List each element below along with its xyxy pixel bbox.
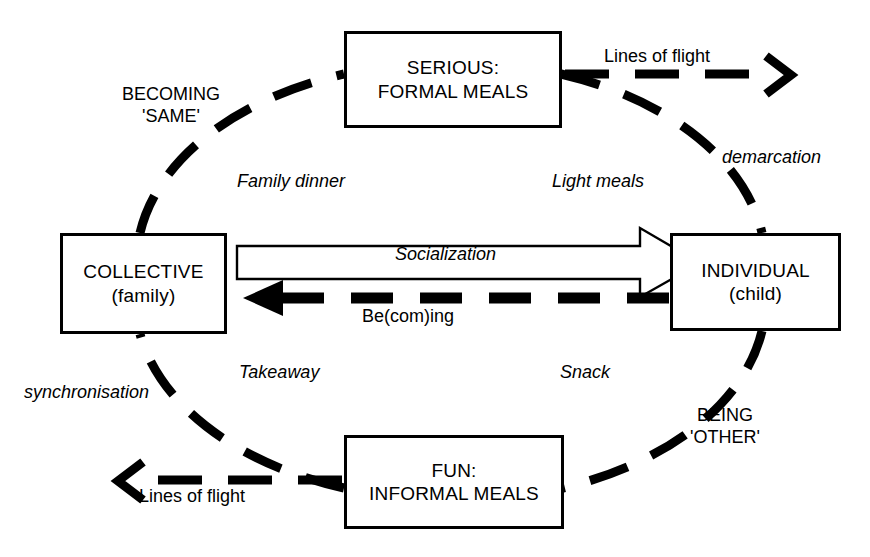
label-takeaway: Takeaway xyxy=(239,362,319,384)
node-individual-line2: (child) xyxy=(729,282,782,305)
label-being-other: BEING 'OTHER' xyxy=(690,405,760,449)
node-serious-line2: FORMAL MEALS xyxy=(378,80,529,103)
label-lines-of-flight-bottom: Lines of flight xyxy=(139,486,245,508)
node-fun-line2: INFORMAL MEALS xyxy=(369,482,539,505)
node-individual-line1: INDIVIDUAL xyxy=(701,259,810,282)
node-serious-formal-meals[interactable]: SERIOUS: FORMAL MEALS xyxy=(344,31,562,128)
label-synchronisation: synchronisation xyxy=(24,382,149,404)
node-serious-line1: SERIOUS: xyxy=(407,56,499,79)
becoming-dashed-arrow xyxy=(243,280,669,316)
node-collective-line2: (family) xyxy=(112,284,176,307)
label-being-other-line2: 'OTHER' xyxy=(690,427,760,449)
becoming-label: Be(com)ing xyxy=(362,306,454,328)
label-becoming-same-line1: BECOMING xyxy=(122,84,220,106)
label-family-dinner: Family dinner xyxy=(237,171,345,193)
label-becoming-same: BECOMING 'SAME' xyxy=(122,84,220,128)
label-snack: Snack xyxy=(560,362,610,384)
label-being-other-line1: BEING xyxy=(690,405,760,427)
label-light-meals: Light meals xyxy=(552,171,644,193)
socialization-label: Socialization xyxy=(395,244,496,266)
label-becoming-same-line2: 'SAME' xyxy=(122,106,220,128)
node-collective-line1: COLLECTIVE xyxy=(83,260,203,283)
node-collective-family[interactable]: COLLECTIVE (family) xyxy=(60,233,227,334)
label-lines-of-flight-top: Lines of flight xyxy=(604,46,710,68)
node-fun-informal-meals[interactable]: FUN: INFORMAL MEALS xyxy=(344,435,564,529)
arc-lower-left xyxy=(140,334,344,488)
label-demarcation: demarcation xyxy=(722,147,821,169)
node-fun-line1: FUN: xyxy=(431,459,476,482)
diagram-canvas: SERIOUS: FORMAL MEALS COLLECTIVE (family… xyxy=(0,0,870,557)
node-individual-child[interactable]: INDIVIDUAL (child) xyxy=(670,233,841,331)
